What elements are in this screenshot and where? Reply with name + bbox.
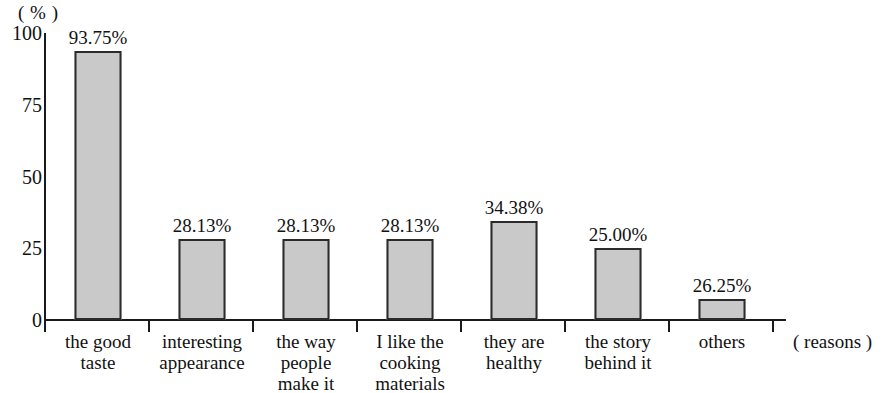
bar-value-label: 28.13% <box>173 216 232 235</box>
bar-value-label: 26.25% <box>693 276 752 295</box>
bar[interactable] <box>75 51 122 320</box>
x-axis-category-label: others <box>670 331 774 352</box>
bar[interactable] <box>699 299 746 320</box>
x-axis-category-label: the good taste <box>46 331 150 373</box>
plot-area: 93.75%28.13%28.13%28.13%34.38%25.00%26.2… <box>46 33 786 320</box>
x-axis-category-label: I like the cooking materials <box>358 331 462 393</box>
bar-group: 28.13% <box>150 33 254 320</box>
x-axis-unit-label: ( reasons ) <box>793 331 872 352</box>
bar-value-label: 28.13% <box>277 216 336 235</box>
y-axis-tick-label: 75 <box>2 95 42 115</box>
bar-group: 34.38% <box>462 33 566 320</box>
bar-group: 28.13% <box>358 33 462 320</box>
y-axis-tick-label: 25 <box>2 238 42 258</box>
x-axis-category-label: the way people make it <box>254 331 358 393</box>
y-axis-tick-label: 100 <box>2 23 42 43</box>
bar-group: 26.25% <box>670 33 774 320</box>
bar-chart: ( % ) 0 25 50 75 100 93.75%28.13%28.13%2… <box>0 0 890 393</box>
y-axis-ticks: 0 25 50 75 100 <box>0 0 42 393</box>
bar-value-label: 34.38% <box>485 198 544 217</box>
bar-group: 93.75% <box>46 33 150 320</box>
bar-group: 25.00% <box>566 33 670 320</box>
bar-value-label: 93.75% <box>69 28 128 47</box>
x-axis-category-labels: the good tasteinteresting appearancethe … <box>46 331 786 393</box>
bar[interactable] <box>595 248 642 320</box>
bar[interactable] <box>283 239 330 320</box>
bar[interactable] <box>179 239 226 320</box>
bar-value-label: 25.00% <box>589 225 648 244</box>
x-axis-category-label: interesting appearance <box>150 331 254 373</box>
bar[interactable] <box>491 221 538 320</box>
x-axis-category-label: they are healthy <box>462 331 566 373</box>
bar-group: 28.13% <box>254 33 358 320</box>
y-axis-tick-label: 0 <box>2 310 42 330</box>
y-axis-tick-label: 50 <box>2 167 42 187</box>
bar[interactable] <box>387 239 434 320</box>
bar-value-label: 28.13% <box>381 216 440 235</box>
x-axis-category-label: the story behind it <box>566 331 670 373</box>
